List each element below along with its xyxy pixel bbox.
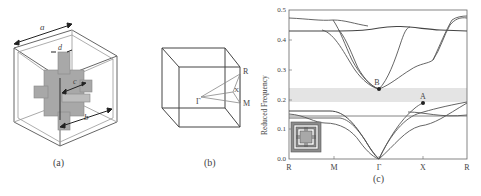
dim-label-c: c [73,77,77,86]
label-gamma: Γ [196,97,201,106]
figure-canvas: a b c d (a) Γ X R M (b) [0,0,481,196]
point-a-label: A [420,92,426,101]
caption-a: (a) [53,157,64,169]
panel-c-band-diagram: 0.5 0.4 0.3 0.2 0.1 0.0 Reduced Frequenc… [260,6,470,185]
y-tick-labels: 0.5 0.4 0.3 0.2 0.1 0.0 [277,6,286,163]
svg-text:R: R [286,163,292,172]
dim-label-d: d [58,43,63,52]
label-m: M [243,99,250,108]
panel-b-brillouin-zone: Γ X R M (b) [162,48,250,169]
svg-text:0.3: 0.3 [277,66,286,74]
svg-text:0.0: 0.0 [277,155,286,163]
x-tick-labels: R M Γ X R [286,163,470,172]
svg-text:R: R [464,163,470,172]
point-b-label: B [374,78,379,87]
point-b [377,87,381,91]
panel-a-unit-cell: a b c d (a) [14,22,117,169]
point-a [421,101,425,105]
label-x: X [234,86,239,94]
svg-text:X: X [420,163,426,172]
svg-text:Γ: Γ [377,163,382,172]
dim-label-b: b [84,112,89,122]
caption-c: (c) [373,173,384,185]
svg-text:M: M [330,163,337,172]
dim-label-a: a [40,22,45,32]
svg-text:0.5: 0.5 [277,6,286,14]
y-axis-label: Reduced Frequency [260,75,269,135]
svg-text:0.4: 0.4 [277,36,286,44]
bz-cube [162,48,240,127]
inset-unit-cell-icon [291,122,321,152]
svg-text:0.1: 0.1 [277,125,286,133]
caption-b: (b) [204,157,216,169]
svg-text:0.2: 0.2 [277,96,286,104]
label-r: R [243,67,249,76]
